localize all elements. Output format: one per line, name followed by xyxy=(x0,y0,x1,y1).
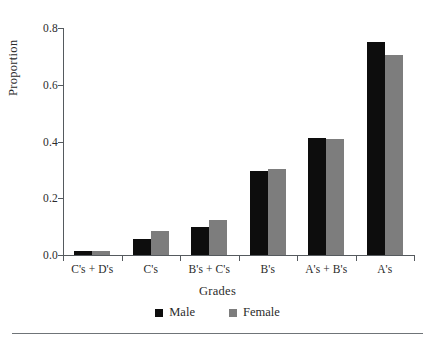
bar-group xyxy=(250,28,286,255)
bar xyxy=(191,227,209,255)
legend-label: Female xyxy=(243,305,280,320)
bar-group xyxy=(74,28,110,255)
y-axis-tick-label: 0.4 xyxy=(43,136,58,148)
bar xyxy=(250,171,268,255)
figure: Proportion 0.00.20.40.60.8 C's + D'sC'sB… xyxy=(0,0,435,344)
legend: MaleFemale xyxy=(0,305,435,320)
y-axis-tick xyxy=(58,198,64,199)
x-axis-tick xyxy=(297,255,298,261)
x-axis-tick-label: C's xyxy=(143,263,158,275)
x-axis-tick xyxy=(239,255,240,261)
x-axis-tick-label: C's + D's xyxy=(71,263,113,275)
bar-group xyxy=(191,28,227,255)
legend-item: Male xyxy=(155,305,195,320)
bar xyxy=(92,251,110,255)
bar-group xyxy=(133,28,169,255)
bar-group xyxy=(308,28,344,255)
y-axis-tick xyxy=(58,142,64,143)
x-axis-tick xyxy=(414,255,415,261)
bar xyxy=(268,169,286,255)
bottom-divider xyxy=(12,333,423,334)
bar-group xyxy=(367,28,403,255)
y-axis-tick-label: 0.8 xyxy=(43,22,58,34)
x-axis-title: Grades xyxy=(0,284,435,299)
x-axis-tick xyxy=(63,255,64,261)
y-axis-title: Proportion xyxy=(6,40,21,96)
bar xyxy=(133,239,151,255)
y-axis-tick-label: 0.6 xyxy=(43,79,58,91)
legend-swatch-icon xyxy=(229,309,237,317)
y-axis-tick-label: 0.2 xyxy=(43,192,58,204)
legend-label: Male xyxy=(169,305,195,320)
x-axis-tick xyxy=(356,255,357,261)
bar xyxy=(326,139,344,255)
x-axis-tick-label: A's xyxy=(377,263,392,275)
bar xyxy=(74,251,92,255)
x-axis-tick-label: B's xyxy=(260,263,275,275)
bar xyxy=(209,220,227,255)
bar xyxy=(151,231,169,255)
x-axis-tick xyxy=(122,255,123,261)
bar xyxy=(385,55,403,255)
y-axis-tick xyxy=(58,28,64,29)
bar xyxy=(308,138,326,255)
legend-swatch-icon xyxy=(155,309,163,317)
x-axis-tick-label: A's + B's xyxy=(305,263,347,275)
x-axis-tick-label: B's + C's xyxy=(188,263,230,275)
y-axis-tick xyxy=(58,85,64,86)
y-axis-tick-label: 0.0 xyxy=(43,249,58,261)
x-axis-tick xyxy=(180,255,181,261)
bar xyxy=(367,42,385,255)
legend-item: Female xyxy=(229,305,280,320)
plot-area: 0.00.20.40.60.8 C's + D'sC'sB's + C'sB's… xyxy=(63,20,418,255)
